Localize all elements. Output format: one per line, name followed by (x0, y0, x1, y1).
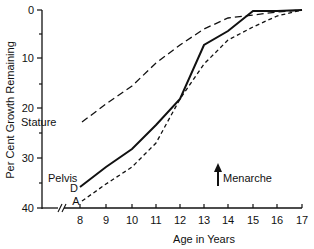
x-axis-label: Age in Years (173, 233, 235, 245)
y-tick-0: 0 (28, 4, 34, 16)
x-tick-11: 11 (150, 214, 161, 226)
x-tick-12: 12 (174, 214, 186, 226)
series-stature (82, 10, 302, 122)
x-tick-13: 13 (198, 214, 210, 226)
a-label: A (72, 195, 80, 207)
growth-chart: 0 10 20 30 40 Per Cent Growth Remaining … (0, 0, 314, 249)
x-tick-labels: 8 9 10 11 12 13 14 15 16 17 (77, 214, 308, 226)
y-tick-40: 40 (22, 202, 34, 214)
menarche-arrow-icon (214, 163, 222, 186)
y-tick-labels: 0 10 20 30 40 (22, 4, 34, 214)
y-tick-10: 10 (22, 52, 34, 64)
x-tick-15: 15 (247, 214, 259, 226)
x-tick-14: 14 (222, 214, 234, 226)
y-ticks (37, 10, 42, 208)
y-axis-label: Per Cent Growth Remaining (4, 41, 16, 179)
x-tick-16: 16 (271, 214, 283, 226)
x-tick-10: 10 (126, 214, 138, 226)
d-label: D (70, 182, 78, 194)
y-tick-30: 30 (22, 152, 34, 164)
x-tick-8: 8 (77, 214, 83, 226)
x-tick-17: 17 (296, 214, 308, 226)
stature-label: Stature (21, 116, 56, 128)
x-tick-9: 9 (103, 214, 109, 226)
y-tick-20: 20 (22, 102, 34, 114)
menarche-label: Menarche (223, 172, 272, 184)
